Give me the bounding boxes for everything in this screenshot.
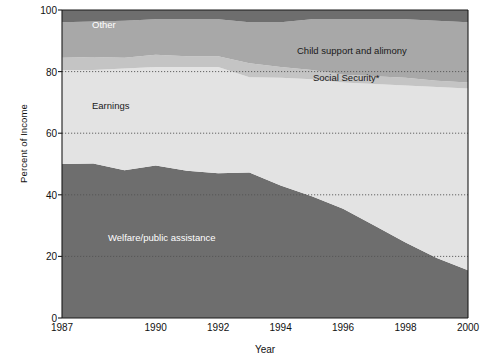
y-tick-label: 40 [35, 189, 57, 200]
plot-area [0, 0, 485, 364]
x-axis-tick-labels: 1987199019921994199619982000 [0, 322, 485, 342]
x-tick-label: 1992 [207, 322, 229, 333]
y-tick-label: 60 [35, 128, 57, 139]
y-axis-title: Percent of Income [18, 69, 29, 219]
x-tick-label: 1996 [332, 322, 354, 333]
x-tick-label: 1994 [269, 322, 291, 333]
stacked-area-chart: Percent of Income 020406080100 OtherChil… [0, 0, 485, 364]
x-tick-label: 2000 [457, 322, 479, 333]
y-tick-label: 20 [35, 251, 57, 262]
x-tick-label: 1990 [145, 322, 167, 333]
y-axis-tick-labels: 020406080100 [30, 0, 57, 364]
area-series-group [62, 10, 468, 318]
x-tick-label: 1998 [394, 322, 416, 333]
x-axis-title: Year [62, 344, 468, 355]
y-tick-label: 80 [35, 66, 57, 77]
x-tick-label: 1987 [51, 322, 73, 333]
y-tick-marks [58, 10, 62, 318]
y-tick-label: 100 [35, 5, 57, 16]
